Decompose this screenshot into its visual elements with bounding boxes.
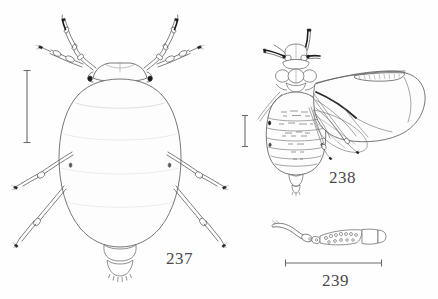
cauda-237 <box>104 245 136 282</box>
figure-237-apterous-aphid <box>12 15 229 282</box>
left-antenna-237 <box>36 15 96 70</box>
plate-drawing: .ln { fill:none; stroke:#5e5e5e; stroke-… <box>0 0 438 299</box>
figure-label-237: 237 <box>166 249 193 269</box>
scale-bar-237 <box>24 70 31 143</box>
scale-bar-239 <box>285 260 382 267</box>
scale-bar-238 <box>242 115 248 147</box>
thorax-238 <box>276 60 317 93</box>
right-antenna-237 <box>144 15 204 70</box>
figure-239-antenna <box>272 221 386 267</box>
cauda-238 <box>289 174 303 196</box>
figure-label-239: 239 <box>322 271 349 291</box>
abdomen-237 <box>59 79 181 247</box>
illustration-plate: .ln { fill:none; stroke:#5e5e5e; stroke-… <box>0 0 438 299</box>
figure-label-238: 238 <box>329 168 356 188</box>
forewing-238 <box>314 71 425 142</box>
